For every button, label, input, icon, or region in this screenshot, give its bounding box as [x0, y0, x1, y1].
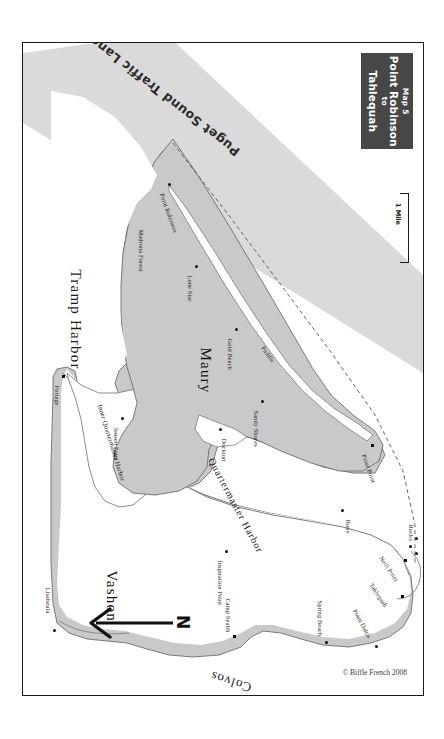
scale-bar-cap-top: [400, 193, 409, 194]
map-title-from: Point Robinson: [387, 56, 399, 147]
scale-bar-label: 1 Mile: [394, 203, 402, 225]
map-frame: Tramp Harbor Maury Vashon Quartermaster …: [22, 42, 424, 696]
marker-camp-sealth: [233, 635, 236, 638]
marker-tahlequah: [401, 595, 404, 598]
copyright-notice: © Biffle French 2008: [342, 668, 407, 677]
map-title-connector: to: [378, 56, 387, 147]
marker-portage: [62, 375, 65, 378]
scale-bar-line: [408, 193, 409, 263]
scale-bar: 1 Mile: [387, 193, 409, 263]
marker-neill-point: [404, 559, 407, 562]
scale-bar-cap-bottom: [400, 262, 409, 263]
map-page: Tramp Harbor Maury Vashon Quartermaster …: [0, 0, 444, 739]
north-arrow-glyph: [78, 606, 188, 640]
map-title-text: Map 5 Point Robinson to Tahlequah: [366, 56, 408, 147]
north-arrow: N: [78, 606, 188, 640]
north-arrow-letter: N: [173, 615, 193, 629]
map-title-block: Map 5 Point Robinson to Tahlequah: [361, 53, 413, 149]
map-number: Map 5: [399, 56, 408, 147]
map-title-to: Tahlequah: [366, 56, 378, 147]
marker-piner-point: [371, 444, 374, 447]
